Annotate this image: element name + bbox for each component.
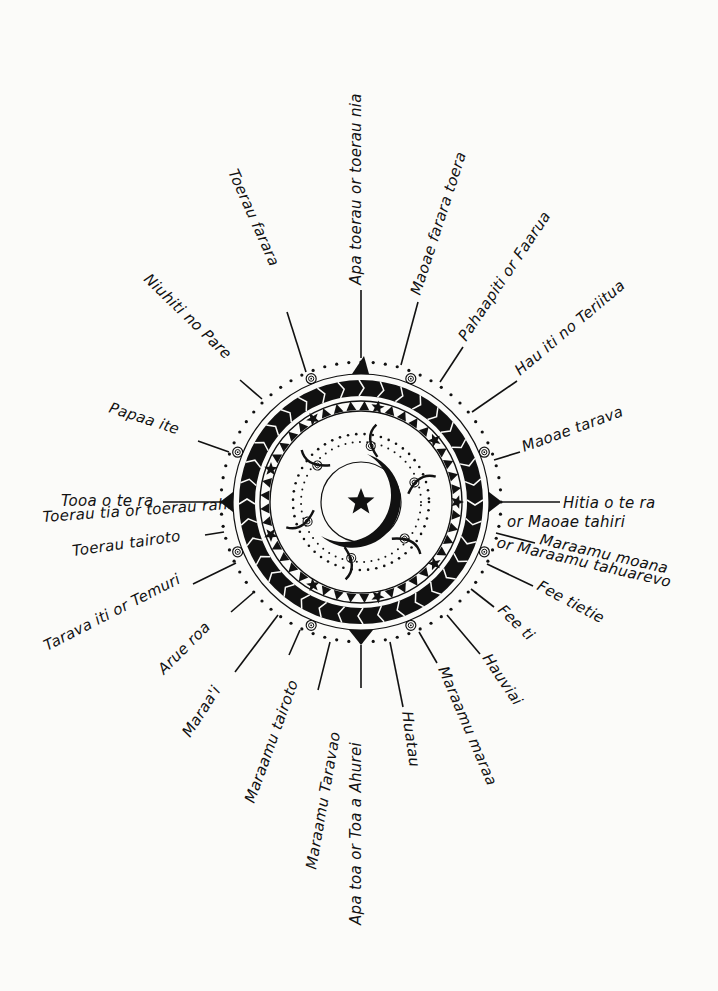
leader-line: [419, 632, 437, 663]
wind-label: Maraamu tairoto: [241, 677, 302, 805]
pointer-north-icon: [352, 356, 369, 374]
wind-huatau: Huatau: [390, 642, 424, 768]
wind-maoae-tarava: Maoae tarava: [494, 402, 626, 460]
wind-label: Hau iti no Teriitua: [511, 276, 629, 379]
wind-arue-roa: Arue roa: [153, 593, 253, 679]
leader-line: [198, 441, 229, 452]
leader-line: [447, 615, 480, 654]
leader-line: [205, 532, 224, 535]
wind-label: Tarava iti or Temuri: [41, 570, 184, 655]
wind-toerau-farara: Toerau farara: [224, 166, 306, 372]
wind-label: Toerau tairoto: [71, 527, 182, 560]
wind-label: Toerau farara: [224, 166, 283, 269]
wind-label: Hitia o te ra: [563, 494, 656, 512]
wind-maraamu-taravao: Maraamu Taravao: [302, 642, 344, 871]
pointer-south-icon: [349, 630, 373, 645]
center-star-icon: [348, 488, 375, 513]
wind-label: Papaa ite: [107, 399, 182, 439]
wind-apa-toa: Apa toa or Toa a Ahurei: [347, 645, 365, 926]
leader-line: [240, 380, 262, 399]
wind-label: Huatau: [398, 710, 424, 768]
wind-hitia-o-te-ra: Hitia o te raor Maoae tahiri: [502, 494, 656, 531]
wind-niuhiti: Niuhiti no Pare: [140, 270, 262, 399]
leader-line: [289, 630, 300, 655]
wind-label: Hauviai: [479, 650, 527, 709]
leader-line: [390, 642, 403, 707]
leader-line: [193, 563, 236, 584]
leader-line: [471, 589, 494, 607]
leader-line: [472, 381, 517, 412]
wind-label: Tooa o te ra: [61, 492, 153, 510]
wind-label: Fee ti: [494, 601, 538, 645]
wind-maraamu-moana: Maraamu moanaor Maraamu tahuarevo: [495, 530, 673, 591]
wind-label: Maraa'i: [178, 682, 224, 740]
wind-apa-toerau: Apa toerau or toerau nia: [347, 93, 365, 358]
wind-label: Apa toerau or toerau nia: [347, 93, 365, 286]
compass-rose: [219, 356, 502, 645]
wind-label: Maoae tarava: [519, 402, 625, 455]
wind-label: Maoae farara toera: [407, 149, 470, 297]
wind-tarava-iti: Tarava iti or Temuri: [41, 563, 236, 655]
leader-line: [401, 302, 418, 365]
leader-line: [440, 347, 463, 382]
wind-label: Fee tietie: [534, 577, 607, 627]
leader-line: [494, 452, 520, 460]
wind-label: Maraamu maraa: [434, 664, 501, 789]
leader-line: [318, 642, 330, 690]
wind-label: Arue roa: [153, 618, 214, 679]
leader-line: [287, 312, 306, 372]
wind-maraamu-tairoto: Maraamu tairoto: [241, 630, 302, 805]
leader-line: [231, 593, 253, 612]
leader-line: [487, 564, 533, 586]
wind-papaa-ite: Papaa ite: [107, 399, 229, 452]
pointer-east-icon: [489, 492, 502, 512]
wind-label: Niuhiti no Pare: [140, 270, 235, 363]
wind-toerau-tairoto: Toerau tairoto: [71, 527, 224, 560]
wind-label: Pahaapiti or Faarua: [454, 208, 554, 344]
leader-line: [235, 615, 278, 672]
wind-label: Apa toa or Toa a Ahurei: [347, 741, 365, 926]
wind-compass-diagram: Apa toerau or toerau niaMaoae farara toe…: [0, 0, 718, 991]
wind-label: Maraamu Taravao: [302, 730, 344, 870]
wind-fee-ti: Fee ti: [471, 589, 539, 645]
wind-label: or Maoae tahiri: [507, 513, 626, 531]
